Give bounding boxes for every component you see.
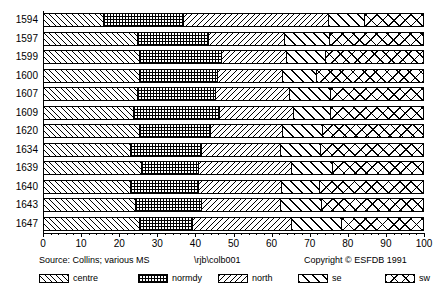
- bar-segment-north: [215, 87, 290, 101]
- x-minor-tick: [96, 233, 97, 235]
- bar-segment-sw: [332, 161, 424, 175]
- x-minor-tick: [188, 233, 189, 235]
- x-minor-tick: [51, 233, 52, 235]
- legend-swatch-centre: [39, 274, 69, 283]
- bar-row: [43, 217, 424, 231]
- bar-segment-normdy: [130, 180, 200, 194]
- bar-segment-sw: [325, 50, 424, 64]
- legend-label-centre: centre: [73, 273, 98, 283]
- bar-segment-normdy: [141, 161, 199, 175]
- bar-row: [43, 87, 424, 101]
- legend-swatch-north: [218, 274, 248, 283]
- x-minor-tick: [355, 233, 356, 235]
- legend-swatch-normdy: [138, 274, 168, 283]
- chart-legend: centrenormdynorthsesw: [0, 273, 448, 289]
- bar-segment-centre: [43, 180, 132, 194]
- legend-label-north: north: [252, 273, 273, 283]
- x-minor-tick: [249, 233, 250, 235]
- legend-item-centre: centre: [39, 273, 98, 283]
- legend-item-sw: sw: [385, 273, 430, 283]
- x-minor-tick: [211, 233, 212, 235]
- y-tick-label: 1594: [2, 14, 38, 25]
- x-tick-mark: [157, 233, 158, 237]
- bar-segment-centre: [43, 161, 143, 175]
- bar-segment-north: [201, 143, 281, 157]
- bar-segment-sw: [320, 143, 424, 157]
- bar-segment-se: [286, 50, 326, 64]
- bar-segment-north: [219, 106, 295, 120]
- bar-segment-se: [280, 198, 322, 212]
- footer-file-path: \rjb\colb001: [194, 255, 241, 265]
- x-tick-mark: [310, 233, 311, 237]
- x-minor-tick: [279, 233, 280, 235]
- x-tick-label: 70: [290, 238, 330, 249]
- x-minor-tick: [333, 233, 334, 235]
- x-tick-label: 30: [137, 238, 177, 249]
- x-tick-label: 0: [23, 238, 63, 249]
- x-minor-tick: [73, 233, 74, 235]
- x-minor-tick: [363, 233, 364, 235]
- x-tick-label: 80: [328, 238, 368, 249]
- bar-segment-sw: [322, 124, 424, 138]
- x-minor-tick: [58, 233, 59, 235]
- bar-segment-se: [293, 106, 331, 120]
- x-minor-tick: [256, 233, 257, 235]
- bar-segment-normdy: [135, 198, 202, 212]
- x-minor-tick: [340, 233, 341, 235]
- bar-segment-centre: [43, 50, 141, 64]
- x-minor-tick: [150, 233, 151, 235]
- legend-label-sw: sw: [419, 273, 430, 283]
- y-tick-label: 1599: [2, 51, 38, 62]
- x-minor-tick: [226, 233, 227, 235]
- y-tick-label: 1639: [2, 162, 38, 173]
- x-minor-tick: [89, 233, 90, 235]
- x-minor-tick: [302, 233, 303, 235]
- x-tick-label: 100: [404, 238, 444, 249]
- bar-row: [43, 106, 424, 120]
- bar-segment-normdy: [103, 13, 184, 27]
- bar-segment-se: [328, 13, 365, 27]
- x-minor-tick: [203, 233, 204, 235]
- x-tick-mark: [119, 233, 120, 237]
- bar-row: [43, 143, 424, 157]
- bar-segment-north: [208, 32, 285, 46]
- bar-row: [43, 13, 424, 27]
- bar-segment-centre: [43, 13, 105, 27]
- legend-label-normdy: normdy: [172, 273, 202, 283]
- x-minor-tick: [112, 233, 113, 235]
- bar-row: [43, 124, 424, 138]
- x-tick-mark: [348, 233, 349, 237]
- bar-segment-north: [198, 180, 282, 194]
- y-tick-label: 1647: [2, 218, 38, 229]
- bar-segment-north: [217, 69, 283, 83]
- bar-segment-centre: [43, 69, 141, 83]
- bars-area: [43, 11, 424, 233]
- x-minor-tick: [264, 233, 265, 235]
- bar-segment-normdy: [139, 124, 210, 138]
- bar-segment-normdy: [137, 32, 208, 46]
- y-tick-label: 1634: [2, 144, 38, 155]
- y-tick-label: 1597: [2, 33, 38, 44]
- bar-segment-se: [284, 32, 330, 46]
- x-tick-label: 20: [99, 238, 139, 249]
- bar-row: [43, 198, 424, 212]
- y-tick-label: 1600: [2, 70, 38, 81]
- bar-row: [43, 180, 424, 194]
- bar-segment-sw: [316, 69, 424, 83]
- bar-segment-se: [291, 161, 332, 175]
- x-tick-mark: [43, 233, 44, 237]
- x-minor-tick: [127, 233, 128, 235]
- bar-segment-se: [291, 217, 342, 231]
- bar-segment-sw: [330, 87, 424, 101]
- bar-row: [43, 161, 424, 175]
- bar-segment-centre: [43, 198, 137, 212]
- y-tick-label: 1609: [2, 107, 38, 118]
- bar-segment-centre: [43, 87, 139, 101]
- x-minor-tick: [241, 233, 242, 235]
- bar-segment-north: [192, 217, 292, 231]
- legend-item-normdy: normdy: [138, 273, 202, 283]
- x-minor-tick: [104, 233, 105, 235]
- x-minor-tick: [409, 233, 410, 235]
- x-minor-tick: [142, 233, 143, 235]
- x-minor-tick: [325, 233, 326, 235]
